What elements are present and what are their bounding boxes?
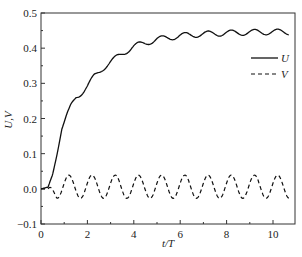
x-tick-label: 6 — [177, 228, 183, 240]
legend: U V — [251, 52, 290, 80]
legend-u-label: U — [281, 52, 290, 64]
x-tick-label: 10 — [268, 228, 280, 240]
y-tick-label: 0.1 — [23, 148, 37, 160]
line-chart: 0246810 −0.10.00.10.20.30.40.5 t/T U,V U… — [0, 0, 302, 257]
series-v-line — [41, 175, 289, 198]
y-tick-label: 0.3 — [23, 77, 37, 89]
y-tick-label: −0.1 — [17, 218, 37, 230]
y-axis-title: U,V — [2, 110, 14, 129]
y-tick-label: 0.4 — [23, 42, 37, 54]
series-u-line — [41, 29, 289, 189]
x-axis-ticks — [41, 220, 273, 224]
plot-area: 0246810 −0.10.00.10.20.30.40.5 — [17, 7, 295, 240]
x-tick-label: 2 — [85, 228, 91, 240]
y-tick-label: 0.0 — [23, 183, 37, 195]
y-axis-tick-labels: −0.10.00.10.20.30.40.5 — [17, 7, 37, 230]
y-tick-label: 0.2 — [23, 113, 37, 125]
x-tick-label: 4 — [131, 228, 137, 240]
y-tick-label: 0.5 — [23, 7, 37, 19]
axes-frame — [41, 13, 295, 224]
x-axis-title: t/T — [162, 237, 175, 249]
x-tick-label: 0 — [38, 228, 44, 240]
legend-v-label: V — [281, 68, 289, 80]
x-axis-tick-labels: 0246810 — [38, 228, 279, 240]
x-tick-label: 8 — [224, 228, 230, 240]
y-axis-ticks — [41, 13, 45, 224]
